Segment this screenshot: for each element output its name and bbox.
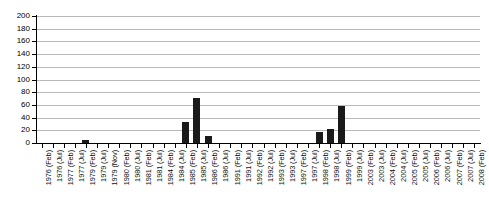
y-axis-label: 160 bbox=[0, 37, 30, 45]
x-axis-tick bbox=[297, 144, 298, 148]
y-axis-label: 120 bbox=[0, 63, 30, 71]
x-axis-label: 1991 (Feb) bbox=[234, 150, 242, 185]
y-axis-tick bbox=[32, 143, 36, 144]
x-axis-tick bbox=[452, 144, 453, 148]
y-axis-tick bbox=[32, 54, 36, 55]
x-axis-label: 1981 (Jul) bbox=[156, 150, 164, 182]
x-axis-tick bbox=[119, 144, 120, 148]
x-axis-label: 1985 (Jul) bbox=[200, 150, 208, 182]
x-axis-label: 1979 (Nov) bbox=[111, 150, 119, 186]
y-axis-label: 100 bbox=[0, 76, 30, 84]
x-axis-tick bbox=[197, 144, 198, 148]
y-axis-label: 80 bbox=[0, 88, 30, 96]
x-axis-tick bbox=[230, 144, 231, 148]
x-axis-label: 2007 (Jul) bbox=[467, 150, 475, 182]
x-axis-label: 2005 (Jul) bbox=[422, 150, 430, 182]
x-axis-label: 1977 (Feb) bbox=[67, 150, 75, 185]
gridline bbox=[36, 80, 480, 81]
bar bbox=[338, 106, 345, 143]
x-axis-tick bbox=[375, 144, 376, 148]
y-axis-tick bbox=[32, 130, 36, 131]
x-axis-tick bbox=[419, 144, 420, 148]
x-axis-tick bbox=[97, 144, 98, 148]
x-axis-label: 1992 (Feb) bbox=[256, 150, 264, 185]
x-axis-label: 1980 (Feb) bbox=[123, 150, 131, 185]
x-axis-tick bbox=[86, 144, 87, 148]
x-axis-label: 2008 (Feb) bbox=[478, 150, 486, 185]
x-axis-tick bbox=[463, 144, 464, 148]
x-axis-tick bbox=[363, 144, 364, 148]
x-axis-label: 1981 (Feb) bbox=[145, 150, 153, 185]
y-axis-label: 60 bbox=[0, 101, 30, 109]
x-axis-label: 2007 (Feb) bbox=[456, 150, 464, 185]
x-axis-tick bbox=[386, 144, 387, 148]
x-axis-tick bbox=[264, 144, 265, 148]
x-axis-tick bbox=[219, 144, 220, 148]
x-axis-label: 1986 (Jul) bbox=[222, 150, 230, 182]
bar bbox=[193, 98, 200, 143]
x-axis-label: 1992 (Jul) bbox=[267, 150, 275, 182]
x-axis-label: 2005 (Feb) bbox=[411, 150, 419, 185]
x-axis-label: 1979 (Jul) bbox=[100, 150, 108, 182]
x-axis-label: 2004 (Jul) bbox=[400, 150, 408, 182]
x-axis-tick bbox=[319, 144, 320, 148]
x-axis-label: 1999 (Jul) bbox=[356, 150, 364, 182]
x-axis-label: 1999 (Feb) bbox=[345, 150, 353, 185]
y-axis-label: 140 bbox=[0, 50, 30, 58]
y-axis-label: 0 bbox=[0, 139, 30, 147]
x-axis-label: 1976 (Jul) bbox=[56, 150, 64, 182]
x-axis-label: 1998 (Feb) bbox=[322, 150, 330, 185]
bar bbox=[327, 129, 334, 143]
x-axis-tick bbox=[208, 144, 209, 148]
x-axis-label: 1986 (Feb) bbox=[211, 150, 219, 185]
bar bbox=[205, 136, 212, 143]
x-axis-label: 2004 (Feb) bbox=[389, 150, 397, 185]
x-axis-tick bbox=[75, 144, 76, 148]
x-axis-tick bbox=[474, 144, 475, 148]
gridline bbox=[36, 92, 480, 93]
x-axis-tick bbox=[341, 144, 342, 148]
x-axis-label: 1984 (Jul) bbox=[178, 150, 186, 182]
plot-area bbox=[36, 16, 480, 143]
x-axis-tick bbox=[308, 144, 309, 148]
gridline bbox=[36, 118, 480, 119]
y-axis-tick bbox=[32, 92, 36, 93]
x-axis-tick bbox=[408, 144, 409, 148]
gridline bbox=[36, 29, 480, 30]
x-axis-tick bbox=[53, 144, 54, 148]
x-axis-tick bbox=[108, 144, 109, 148]
gridline bbox=[36, 54, 480, 55]
gridline bbox=[36, 67, 480, 68]
x-axis-tick bbox=[275, 144, 276, 148]
x-axis-tick bbox=[175, 144, 176, 148]
x-axis-tick bbox=[252, 144, 253, 148]
bar-chart: 020406080100120140160180200 1976 (Feb)19… bbox=[0, 0, 489, 211]
y-axis-tick bbox=[32, 118, 36, 119]
x-axis-tick bbox=[153, 144, 154, 148]
x-axis-label: 1997 (Feb) bbox=[300, 150, 308, 185]
y-axis-label: 20 bbox=[0, 126, 30, 134]
y-axis-label: 180 bbox=[0, 25, 30, 33]
x-axis-label: 1977 (Jul) bbox=[78, 150, 86, 182]
x-axis-tick bbox=[430, 144, 431, 148]
gridline bbox=[36, 105, 480, 106]
x-axis-label: 2006 (Feb) bbox=[433, 150, 441, 185]
x-axis-label: 1993 (Feb) bbox=[278, 150, 286, 185]
x-axis-label: 1984 (Feb) bbox=[167, 150, 175, 185]
x-axis-line bbox=[36, 143, 481, 144]
x-axis-label: 1979 (Feb) bbox=[89, 150, 97, 185]
x-axis-tick bbox=[286, 144, 287, 148]
x-axis-tick bbox=[441, 144, 442, 148]
x-axis-tick bbox=[164, 144, 165, 148]
x-axis-tick bbox=[186, 144, 187, 148]
gridline bbox=[36, 41, 480, 42]
x-axis-tick bbox=[241, 144, 242, 148]
x-axis-tick bbox=[64, 144, 65, 148]
x-axis-tick bbox=[397, 144, 398, 148]
x-axis-label: 2003 (Jul) bbox=[378, 150, 386, 182]
x-axis-label: 1997 (Jul) bbox=[311, 150, 319, 182]
x-axis-label: 1976 (Feb) bbox=[45, 150, 53, 185]
y-axis-tick bbox=[32, 67, 36, 68]
y-axis-tick bbox=[32, 16, 36, 17]
x-axis-label: 1980 (Jul) bbox=[134, 150, 142, 182]
